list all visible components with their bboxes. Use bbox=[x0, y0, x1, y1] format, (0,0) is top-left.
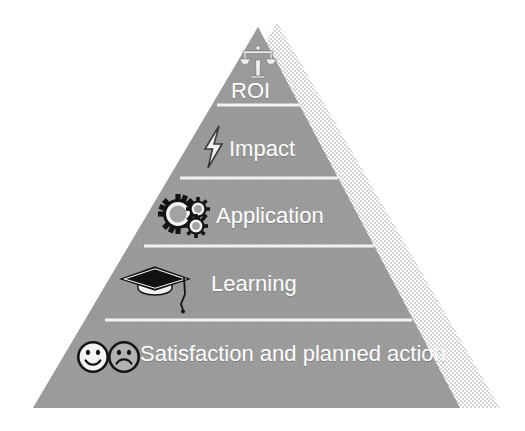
tier-label-learning: Learning bbox=[211, 271, 297, 297]
tier-label-impact: Impact bbox=[229, 136, 295, 162]
frowny-face-icon bbox=[108, 341, 140, 373]
tier-label-roi: ROI bbox=[231, 78, 270, 104]
gear-small-lower bbox=[184, 214, 208, 238]
tier-label-application: Application bbox=[216, 203, 324, 229]
tier-label-satisfaction: Satisfaction and planned action bbox=[140, 341, 446, 367]
pyramid-diagram: ROI Impact Application Learning Satisfac… bbox=[0, 0, 525, 431]
smiley-face-icon bbox=[77, 341, 109, 373]
